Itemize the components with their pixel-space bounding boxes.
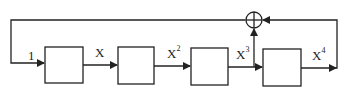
register-1 [45,47,83,83]
label-x2: X2 [167,47,180,60]
register-4 [263,49,301,86]
register-2 [118,47,154,84]
label-x3: X3 [236,48,249,61]
xor-adder [246,12,262,28]
label-x4: X4 [312,49,325,62]
label-x: X [95,46,104,59]
feedback-line [11,20,246,63]
register-3 [191,48,228,85]
label-input: 1 [28,49,35,62]
tap-x4 [263,20,337,68]
